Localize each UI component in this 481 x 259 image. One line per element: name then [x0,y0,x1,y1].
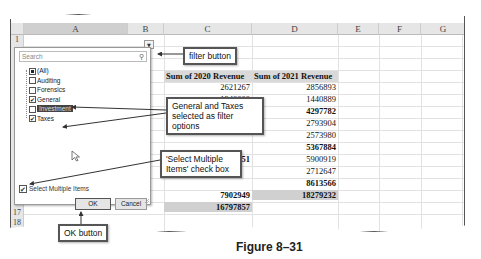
checkbox-partial-icon[interactable] [29,68,36,75]
cell-d-2021[interactable]: 2712647 [252,166,336,176]
cell-d-2021[interactable]: 5900919 [252,154,336,164]
filter-item-list: (All) Auditing Forensics ✔ General Inves… [23,66,133,123]
col-header-g[interactable]: G [421,23,465,35]
col-header-d[interactable]: D [252,23,338,35]
filter-item-taxes[interactable]: ✔ Taxes [23,114,133,124]
search-input[interactable]: Search ⚲ [19,51,147,62]
filter-item-all[interactable]: (All) [23,66,133,76]
row-header-18[interactable]: 18 [11,218,24,228]
checkbox-icon[interactable] [29,87,36,94]
cell-d-2021[interactable]: 2856893 [252,82,336,92]
checkbox-checked-icon[interactable]: ✔ [19,185,27,193]
col-header-e[interactable]: E [338,23,379,35]
checkbox-checked-icon[interactable]: ✔ [29,96,36,103]
cell-c-grand-total[interactable]: 16797857 [164,202,252,212]
ok-button[interactable]: OK [75,198,111,210]
resize-grip-icon[interactable] [144,198,150,204]
figure-caption: Figure 8–31 [236,240,303,254]
col-header-b[interactable]: B [128,23,164,35]
cell-c-2020[interactable]: 7902949 [164,190,250,200]
cell-c-2020[interactable]: 2621267 [164,82,250,92]
callout-general-taxes: General and Taxes selected as filter opt… [166,97,264,135]
col-header-c[interactable]: C [164,23,252,35]
cell-d-2021[interactable]: 2573980 [252,130,336,140]
callout-ok-button: OK button [58,224,108,242]
cell-d-grand-total[interactable]: 18279232 [252,190,338,200]
filter-item-forensics[interactable]: Forensics [23,85,133,95]
header-2021-revenue[interactable]: Sum of 2021 Revenue [252,71,338,82]
checkbox-icon[interactable] [29,106,36,113]
search-placeholder: Search [22,53,43,60]
cell-d-2021[interactable]: 4297782 [252,106,336,116]
select-multiple-items-checkbox[interactable]: ✔ Select Multiple Items [19,185,89,192]
col-header-a[interactable]: A [24,23,128,35]
checkbox-icon[interactable] [29,77,36,84]
cancel-button[interactable]: Cancel [115,198,147,210]
row-header-1[interactable]: 1 [11,35,24,46]
filter-panel: Search ⚲ (All) Auditing Forensics ✔ Gene… [14,47,151,205]
cell-d-2021[interactable]: 2793904 [252,118,336,128]
mouse-pointer-icon [71,150,81,162]
search-icon: ⚲ [139,52,144,62]
row-header-17[interactable]: 17 [11,208,24,218]
callout-select-multiple: 'Select Multiple Items' check box [160,150,242,178]
filter-item-auditing[interactable]: Auditing [23,76,133,86]
filter-item-investment[interactable]: Investment [23,104,133,114]
filter-item-general[interactable]: ✔ General [23,95,133,105]
callout-filter-button: filter button [183,47,237,65]
checkbox-checked-icon[interactable]: ✔ [29,115,36,122]
select-all-corner[interactable] [11,23,24,35]
cell-d-2021[interactable]: 1440889 [252,94,336,104]
header-2020-revenue[interactable]: Sum of 2020 Revenue [164,71,252,82]
cell-d-2021[interactable]: 5367884 [252,142,336,152]
col-header-f[interactable]: F [379,23,421,35]
cell-d-2021[interactable]: 8613566 [252,178,336,188]
